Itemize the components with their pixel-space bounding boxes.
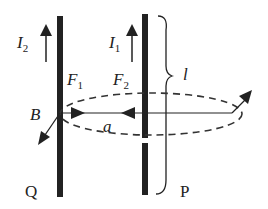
label-wire-p: P <box>180 182 189 201</box>
diagram-canvas: I2 I1 F1 F2 l B a Q P <box>0 0 268 209</box>
field-direction-arrow-icon <box>232 90 252 113</box>
label-f2: F2 <box>112 70 129 91</box>
label-wire-q: Q <box>25 182 37 201</box>
label-i2: I2 <box>16 33 28 54</box>
label-i1: I1 <box>108 33 120 54</box>
length-brace-icon <box>156 16 172 194</box>
force-arrow-f1-icon <box>71 107 85 119</box>
label-field-b: B <box>30 105 41 124</box>
label-separation: a <box>103 117 112 136</box>
field-line-ellipse <box>60 93 242 135</box>
current-arrow-i2-icon <box>40 24 52 62</box>
wire-q <box>57 16 63 197</box>
current-arrow-i1-icon <box>126 24 138 62</box>
wire-p <box>142 14 148 195</box>
force-arrow-f2-icon <box>121 107 135 119</box>
label-f1: F1 <box>66 70 83 91</box>
label-length: l <box>183 65 188 84</box>
field-arrow-b-icon <box>38 113 60 145</box>
